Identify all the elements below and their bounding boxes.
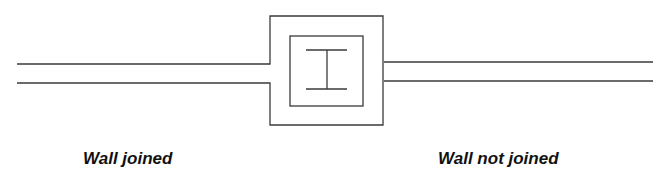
right-wall-not-joined	[384, 62, 653, 81]
left-wall-joined-outline	[17, 16, 383, 125]
wall-join-diagram: Wall joined Wall not joined	[0, 0, 658, 182]
i-beam-icon	[306, 50, 347, 89]
label-wall-not-joined: Wall not joined	[438, 149, 559, 168]
label-wall-joined: Wall joined	[83, 149, 173, 168]
